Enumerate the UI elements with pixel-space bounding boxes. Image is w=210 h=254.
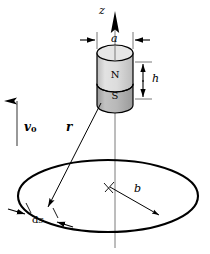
- dim-ds-arrow-left: [8, 209, 25, 214]
- position-vector-label: r: [66, 121, 72, 133]
- north-pole-label: N: [108, 69, 122, 80]
- conducting-loop: [18, 160, 198, 232]
- velocity-label: v0: [24, 121, 37, 133]
- arc-element-s: s: [38, 214, 43, 225]
- height-label: h: [152, 73, 159, 84]
- loop-center-tick-a: [105, 182, 114, 192]
- velocity-symbol: v: [24, 120, 31, 134]
- ds-tick-right: [53, 208, 58, 218]
- z-axis-label: z: [99, 5, 105, 16]
- diameter-label: a: [111, 33, 118, 44]
- radius-label: b: [134, 183, 141, 194]
- physics-figure-magnet-loop: z a h b r v0 ds N S: [0, 0, 210, 254]
- south-pole-label: S: [108, 90, 122, 101]
- arc-element-label: ds: [32, 215, 44, 225]
- position-vector-r: [48, 103, 101, 207]
- velocity-subscript: 0: [31, 124, 37, 134]
